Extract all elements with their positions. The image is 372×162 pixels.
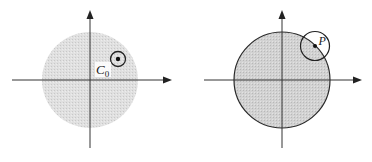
y-axis-arrow-icon [87, 10, 94, 19]
label-p: P [318, 34, 327, 48]
y-axis-arrow-icon [279, 10, 286, 19]
center-dot [116, 57, 120, 61]
right-panel: P [204, 10, 362, 148]
x-axis-arrow-icon [163, 77, 172, 84]
figure-canvas: C0 P [0, 0, 372, 162]
x-axis-arrow-icon [353, 77, 362, 84]
left-panel: C0 [12, 10, 172, 148]
point-p-dot [313, 44, 317, 48]
